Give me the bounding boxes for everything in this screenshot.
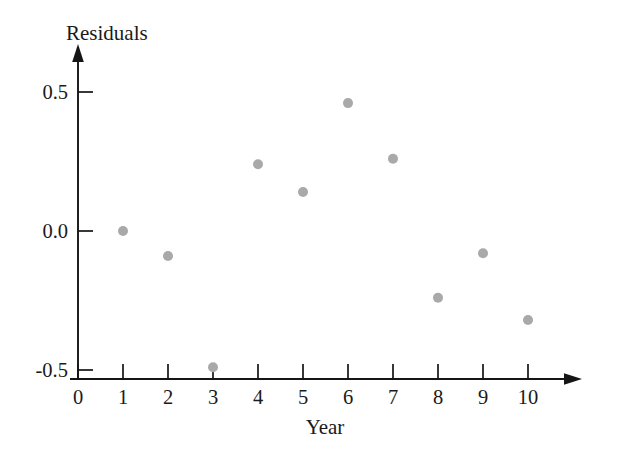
x-tick-label-3: 3 (208, 386, 218, 408)
data-point (163, 251, 173, 261)
x-tick-label-5: 5 (298, 386, 308, 408)
data-point (298, 187, 308, 197)
data-point-group (118, 98, 533, 372)
x-tick-label-1: 1 (118, 386, 128, 408)
y-tick-label-0.5: 0.5 (42, 81, 68, 103)
y-axis-arrow-icon (72, 44, 84, 62)
x-tick-label-6: 6 (343, 386, 353, 408)
data-point (433, 293, 443, 303)
y-tick-group (78, 92, 93, 370)
data-point (523, 315, 533, 325)
scatter-chart: 0.5 0.0 -0.5 0 1 2 3 4 5 6 7 8 9 10 Res (0, 0, 619, 451)
data-point (478, 248, 488, 258)
y-axis-title: Residuals (66, 21, 148, 45)
x-tick-label-10: 10 (518, 386, 539, 408)
data-point (118, 226, 128, 236)
x-axis-arrow-icon (564, 373, 582, 385)
x-tick-label-7: 7 (388, 386, 398, 408)
x-tick-label-4: 4 (253, 386, 263, 408)
x-tick-group (78, 364, 528, 379)
data-point (343, 98, 353, 108)
y-tick-label--0.5: -0.5 (36, 359, 68, 381)
x-axis (70, 373, 582, 385)
y-tick-label-0.0: 0.0 (42, 220, 68, 242)
x-axis-title: Year (306, 415, 345, 439)
y-axis (72, 44, 84, 380)
chart-canvas: 0.5 0.0 -0.5 0 1 2 3 4 5 6 7 8 9 10 Res (0, 0, 619, 451)
x-tick-label-2: 2 (163, 386, 173, 408)
x-tick-label-8: 8 (433, 386, 443, 408)
data-point (208, 362, 218, 372)
data-point (388, 154, 398, 164)
x-tick-label-0: 0 (73, 386, 83, 408)
data-point (253, 159, 263, 169)
x-tick-label-9: 9 (478, 386, 488, 408)
